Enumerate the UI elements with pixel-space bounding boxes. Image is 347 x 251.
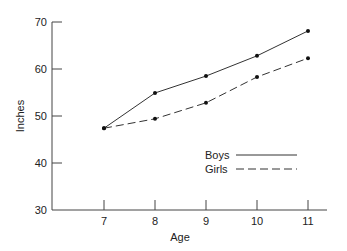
- x-tick-label: 9: [203, 215, 209, 227]
- legend-label-boys: Boys: [205, 149, 230, 161]
- y-axis-title: Inches: [14, 99, 26, 132]
- data-point-boys: [153, 91, 157, 95]
- data-point-girls: [306, 56, 310, 60]
- data-point-girls: [204, 101, 208, 105]
- chart-canvas: 30405060707891011 Boys Girls Age Inches: [0, 0, 347, 251]
- series-line-girls: [104, 58, 308, 128]
- data-point-boys: [204, 74, 208, 78]
- legend: Boys Girls: [205, 149, 297, 175]
- data-point-boys: [255, 54, 259, 58]
- y-tick-label: 70: [35, 16, 47, 28]
- data-point-girls: [255, 75, 259, 79]
- data-point-girls: [102, 126, 106, 130]
- y-tick-label: 40: [35, 157, 47, 169]
- data-point-boys: [306, 29, 310, 33]
- axes: 30405060707891011: [35, 16, 327, 227]
- series-line-boys: [104, 31, 308, 128]
- series-layer: [102, 29, 310, 130]
- x-tick-label: 8: [152, 215, 158, 227]
- x-tick-label: 11: [302, 215, 313, 227]
- x-axis-title: Age: [170, 231, 190, 243]
- x-tick-label: 10: [251, 215, 263, 227]
- y-tick-label: 60: [35, 63, 47, 75]
- line-chart: 30405060707891011 Boys Girls Age Inches: [0, 0, 347, 251]
- data-point-girls: [153, 117, 157, 121]
- y-tick-label: 50: [35, 110, 47, 122]
- x-tick-label: 7: [101, 215, 107, 227]
- y-tick-label: 30: [35, 204, 47, 216]
- legend-label-girls: Girls: [205, 163, 228, 175]
